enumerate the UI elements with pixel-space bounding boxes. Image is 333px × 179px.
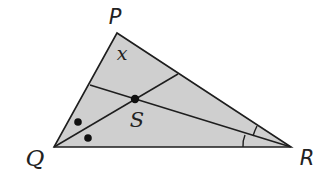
angle-mark-q-dot-upper xyxy=(74,118,82,126)
incenter-point-s xyxy=(131,95,139,103)
triangle-diagram: P Q R S x xyxy=(0,0,333,179)
vertex-label-r: R xyxy=(300,146,315,170)
angle-mark-q-dot-lower xyxy=(84,134,92,142)
angle-label-x: x xyxy=(117,42,128,64)
vertex-label-p: P xyxy=(109,5,122,29)
incenter-label-s: S xyxy=(130,108,144,132)
vertex-label-q: Q xyxy=(26,145,45,171)
